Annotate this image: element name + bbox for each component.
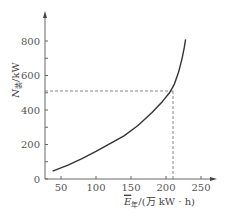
x-tick-label: 200	[156, 182, 175, 193]
x-tick-label: 100	[86, 182, 105, 193]
x-tick-label: 250	[191, 182, 210, 193]
x-tick-label: 150	[121, 182, 140, 193]
y-tick-label: 800	[21, 36, 40, 47]
y-tick-label: 0	[34, 174, 40, 185]
y-tick-label: 600	[21, 70, 40, 81]
y-axis-arrow-icon	[43, 11, 47, 18]
x-axis-label: E年/(万 kW · h)	[123, 196, 195, 209]
chart: 020040060080050100150200250N装/kWE年/(万 kW…	[0, 0, 233, 219]
y-tick-label: 200	[21, 139, 40, 150]
y-tick-label: 400	[21, 105, 40, 116]
x-tick-label: 50	[55, 182, 68, 193]
x-axis-arrow-icon	[210, 177, 217, 181]
data-curve	[53, 39, 186, 171]
